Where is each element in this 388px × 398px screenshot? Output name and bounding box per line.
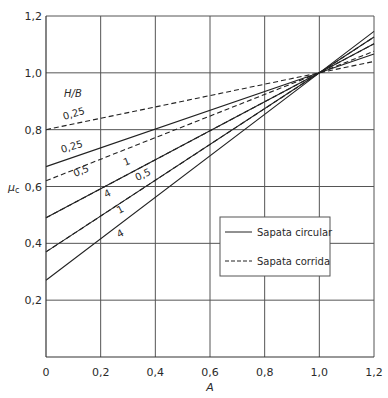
y-tick-label: 1,2: [25, 10, 43, 23]
y-tick-label: 0,2: [25, 294, 43, 307]
x-tick-label: 0: [43, 366, 50, 379]
y-tick-label: 0,6: [25, 181, 43, 194]
x-tick-label: 0,6: [201, 366, 219, 379]
line-label: 0,5: [133, 166, 152, 183]
x-tick-label: 0,8: [256, 366, 274, 379]
x-tick-label: 1,2: [365, 366, 383, 379]
line-label: 0,25: [62, 105, 86, 122]
line-label: 4: [102, 187, 113, 200]
line-label: 4: [115, 227, 126, 240]
line-label: 1: [122, 155, 132, 168]
x-tick-label: 0,2: [92, 366, 110, 379]
y-tick-label: 0,8: [25, 124, 43, 137]
line-labels: H/B0,250,250,510,5414: [60, 88, 153, 240]
grid: [46, 16, 374, 357]
legend-label: Sapata corrida: [257, 256, 330, 267]
chart: H/B0,250,250,510,5414 00,20,40,60,81,01,…: [0, 0, 388, 398]
line-label: 1: [115, 203, 126, 216]
annotation-header: H/B: [64, 88, 82, 99]
y-tick-label: 0,4: [25, 237, 43, 250]
x-tick-label: 1,0: [311, 366, 329, 379]
line-label: 0,5: [72, 163, 91, 179]
legend-label: Sapata circular: [257, 227, 333, 238]
legend-box: [220, 217, 330, 276]
line-label: 0,25: [60, 138, 84, 155]
x-tick-label: 0,4: [147, 366, 165, 379]
y-axis-label: μc: [7, 181, 19, 195]
x-axis-label: A: [205, 381, 214, 394]
y-tick-label: 1,0: [25, 67, 43, 80]
legend: Sapata circularSapata corrida: [220, 217, 333, 276]
